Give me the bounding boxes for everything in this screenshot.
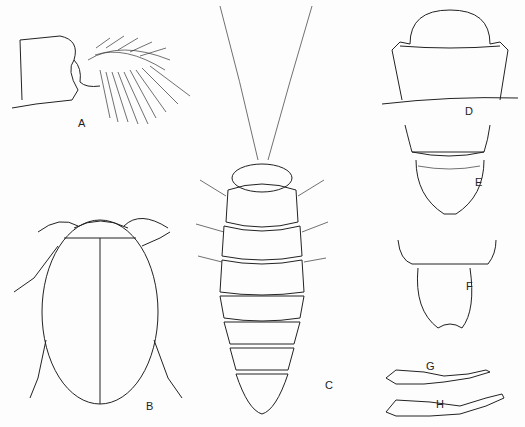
scientific-plate: A B C D E F G H — [0, 0, 525, 427]
panel-e-drawing — [405, 125, 490, 214]
panel-b-drawing — [14, 218, 182, 404]
label-e: E — [475, 176, 482, 188]
panel-f-drawing — [398, 240, 496, 328]
label-f: F — [466, 280, 473, 292]
panel-g-drawing — [386, 370, 490, 384]
plate-drawings — [0, 0, 525, 427]
panel-c-drawing — [196, 6, 328, 414]
panel-h-drawing — [386, 394, 504, 416]
panel-d-drawing — [382, 10, 518, 104]
label-b: B — [146, 400, 153, 412]
label-c: C — [325, 379, 333, 391]
label-h: H — [436, 398, 444, 410]
label-g: G — [426, 360, 435, 372]
label-d: D — [465, 105, 473, 117]
label-a: A — [78, 117, 85, 129]
panel-a-drawing — [12, 36, 190, 124]
